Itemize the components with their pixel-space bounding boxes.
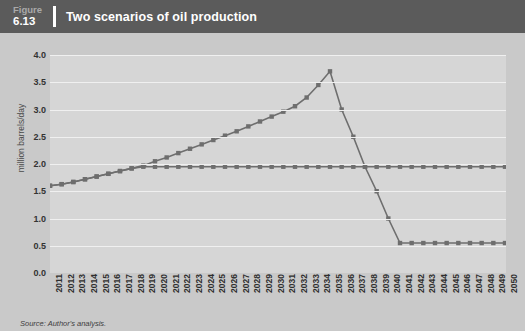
series-marker bbox=[59, 182, 63, 186]
series-marker bbox=[339, 165, 343, 169]
x-axis-tick: 2033 bbox=[311, 274, 321, 293]
plot-region bbox=[50, 55, 506, 273]
x-axis-tick: 2047 bbox=[474, 274, 484, 293]
x-axis-tick: 2022 bbox=[182, 274, 192, 293]
x-axis-tick: 2012 bbox=[66, 274, 76, 293]
x-axis-tick: 2050 bbox=[509, 274, 519, 293]
x-axis-tick: 2031 bbox=[287, 274, 297, 293]
gridline bbox=[50, 191, 506, 192]
x-axis-tick: 2036 bbox=[346, 274, 356, 293]
x-axis-tick: 2026 bbox=[229, 274, 239, 293]
y-axis-tick: 1.0 bbox=[33, 214, 46, 224]
x-axis-tick: 2013 bbox=[77, 274, 87, 293]
series-marker bbox=[398, 241, 402, 245]
series-marker bbox=[433, 165, 437, 169]
x-axis-tick: 2015 bbox=[101, 274, 111, 293]
series-marker bbox=[50, 184, 52, 188]
gridline bbox=[50, 110, 506, 111]
series-line-1 bbox=[50, 71, 505, 243]
series-marker bbox=[246, 124, 250, 128]
series-marker bbox=[328, 69, 332, 73]
series-marker bbox=[164, 165, 168, 169]
y-axis-tick: 3.5 bbox=[33, 77, 46, 87]
series-marker bbox=[444, 165, 448, 169]
series-marker bbox=[269, 114, 273, 118]
series-marker bbox=[188, 165, 192, 169]
series-marker bbox=[118, 169, 122, 173]
series-marker bbox=[468, 241, 472, 245]
series-marker bbox=[211, 165, 215, 169]
x-axis-tick: 2038 bbox=[369, 274, 379, 293]
series-marker bbox=[444, 241, 448, 245]
x-axis-tick: 2044 bbox=[439, 274, 449, 293]
series-marker bbox=[188, 147, 192, 151]
x-axis-tick: 2019 bbox=[147, 274, 157, 293]
series-marker bbox=[503, 165, 506, 169]
x-axis-tick: 2032 bbox=[299, 274, 309, 293]
series-marker bbox=[269, 165, 273, 169]
series-marker bbox=[456, 241, 460, 245]
x-axis-tick: 2025 bbox=[217, 274, 227, 293]
series-marker bbox=[421, 165, 425, 169]
series-marker bbox=[479, 165, 483, 169]
series-marker bbox=[164, 155, 168, 159]
gridline bbox=[50, 55, 506, 56]
figure-number-block: Figure 6.13 bbox=[13, 5, 53, 27]
x-axis-tick: 2014 bbox=[89, 274, 99, 293]
y-axis-tick: 0.5 bbox=[33, 241, 46, 251]
x-axis-tick: 2034 bbox=[322, 274, 332, 293]
series-marker bbox=[316, 83, 320, 87]
x-axis-tick: 2039 bbox=[381, 274, 391, 293]
series-marker bbox=[304, 165, 308, 169]
series-marker bbox=[328, 165, 332, 169]
x-axis-tick: 2024 bbox=[206, 274, 216, 293]
series-marker bbox=[106, 172, 110, 176]
figure-number: 6.13 bbox=[13, 15, 53, 27]
series-marker bbox=[176, 151, 180, 155]
series-marker bbox=[386, 165, 390, 169]
series-marker bbox=[234, 165, 238, 169]
x-axis-tick: 2020 bbox=[159, 274, 169, 293]
y-axis-tick: 4.0 bbox=[33, 50, 46, 60]
series-marker bbox=[316, 165, 320, 169]
x-axis-tick: 2049 bbox=[497, 274, 507, 293]
series-marker bbox=[503, 241, 506, 245]
gridline bbox=[50, 164, 506, 165]
x-axis-tick: 2017 bbox=[124, 274, 134, 293]
series-marker bbox=[363, 165, 367, 169]
gridline bbox=[50, 82, 506, 83]
series-marker bbox=[258, 165, 262, 169]
x-axis-tick: 2035 bbox=[334, 274, 344, 293]
series-marker bbox=[153, 159, 157, 163]
y-axis-tick: 0.0 bbox=[33, 268, 46, 278]
series-marker bbox=[409, 241, 413, 245]
x-axis-tick: 2027 bbox=[241, 274, 251, 293]
series-marker bbox=[141, 165, 145, 169]
series-marker bbox=[129, 166, 133, 170]
title-divider bbox=[53, 6, 56, 27]
series-marker bbox=[94, 174, 98, 178]
x-axis-tick: 2041 bbox=[404, 274, 414, 293]
x-axis-tick: 2048 bbox=[486, 274, 496, 293]
figure-word: Figure bbox=[13, 4, 42, 15]
series-marker bbox=[293, 165, 297, 169]
series-marker bbox=[176, 165, 180, 169]
x-axis-tick: 2018 bbox=[136, 274, 146, 293]
series-marker bbox=[491, 165, 495, 169]
gridline bbox=[50, 219, 506, 220]
figure-title-bar: Figure 6.13 Two scenarios of oil product… bbox=[0, 0, 525, 33]
series-marker bbox=[468, 165, 472, 169]
x-axis-tick: 2046 bbox=[462, 274, 472, 293]
gridline bbox=[50, 137, 506, 138]
series-marker bbox=[409, 165, 413, 169]
figure-title: Two scenarios of oil production bbox=[66, 10, 257, 24]
series-marker bbox=[398, 165, 402, 169]
x-axis-tick-labels: 2011201220132014201520162017201820192020… bbox=[50, 274, 506, 318]
figure-container: Figure 6.13 Two scenarios of oil product… bbox=[0, 0, 525, 331]
chart-area: million barrels/day 0.00.51.01.52.02.53.… bbox=[0, 33, 525, 331]
series-marker bbox=[293, 104, 297, 108]
x-axis-tick: 2023 bbox=[194, 274, 204, 293]
x-axis-tick: 2037 bbox=[357, 274, 367, 293]
series-marker bbox=[199, 142, 203, 146]
series-marker bbox=[281, 165, 285, 169]
